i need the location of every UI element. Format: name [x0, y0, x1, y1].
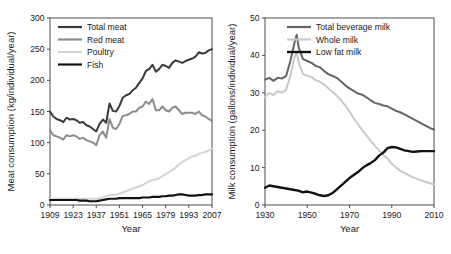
legend-label-low-fat-milk: Low fat milk — [316, 47, 362, 57]
x-tick-label: 1979 — [156, 210, 175, 220]
legend-label-whole-milk: Whole milk — [316, 35, 359, 45]
y-tick-label: 50 — [35, 169, 45, 179]
y-tick-label: 10 — [250, 163, 260, 173]
x-axis-label: Year — [340, 223, 359, 234]
series-line-whole-milk — [265, 52, 434, 185]
x-tick-label: 1950 — [298, 210, 317, 220]
y-tick-label: 0 — [40, 200, 45, 210]
y-tick-label: 100 — [30, 138, 45, 148]
milk-consumption-chart: 0102030405019301950197019902010YearMilk … — [225, 0, 451, 254]
series-line-red-meat — [50, 99, 212, 145]
y-tick-label: 250 — [30, 44, 45, 54]
legend-label-total-meat: Total meat — [87, 22, 127, 32]
x-tick-label: 2007 — [202, 210, 221, 220]
panel-milk-consumption: 0102030405019301950197019902010YearMilk … — [225, 0, 451, 254]
panel-meat-consumption: 0501001502002503001909192319371951196519… — [0, 0, 225, 254]
legend-label-total-beverage-milk: Total beverage milk — [316, 22, 391, 32]
y-tick-label: 0 — [255, 200, 260, 210]
x-tick-label: 1930 — [255, 210, 274, 220]
x-tick-label: 1990 — [382, 210, 401, 220]
legend-label-red-meat: Red meat — [87, 35, 125, 45]
x-tick-label: 1937 — [87, 210, 106, 220]
x-tick-label: 1951 — [110, 210, 129, 220]
y-tick-label: 30 — [250, 88, 260, 98]
y-axis-label: Meat consumption (kg/individual/year) — [5, 32, 16, 192]
figure-two-panel-line-charts: 0501001502002503001909192319371951196519… — [0, 0, 451, 254]
x-tick-label: 1993 — [179, 210, 198, 220]
y-tick-label: 40 — [250, 50, 260, 60]
y-tick-label: 200 — [30, 75, 45, 85]
x-tick-label: 2010 — [424, 210, 443, 220]
series-line-poultry — [50, 149, 212, 199]
series-line-total-meat — [50, 49, 212, 131]
y-tick-label: 150 — [30, 107, 45, 117]
x-axis-label: Year — [121, 223, 140, 234]
x-tick-label: 1965 — [133, 210, 152, 220]
y-axis-label: Milk consumption (gallons/individual/yea… — [226, 24, 237, 200]
y-tick-label: 20 — [250, 125, 260, 135]
legend-label-fish: Fish — [87, 60, 103, 70]
y-tick-label: 300 — [30, 13, 45, 23]
x-tick-label: 1923 — [64, 210, 83, 220]
x-tick-label: 1970 — [340, 210, 359, 220]
y-tick-label: 50 — [250, 13, 260, 23]
meat-consumption-chart: 0501001502002503001909192319371951196519… — [0, 0, 225, 254]
legend-label-poultry: Poultry — [87, 47, 114, 57]
series-line-low-fat-milk — [265, 147, 434, 196]
x-tick-label: 1909 — [40, 210, 59, 220]
